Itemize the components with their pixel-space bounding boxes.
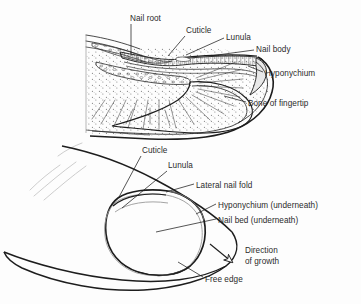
label-lunula: Lunula xyxy=(226,33,251,43)
label-nail-body: Nail body xyxy=(256,45,291,55)
finger-crease-sketch-lines xyxy=(30,143,86,200)
label-direction-of-growth-line1: Direction xyxy=(245,246,278,256)
label-bone-of-fingertip: Bone of fingertip xyxy=(248,99,308,109)
surface-view-drawing xyxy=(4,143,237,290)
leader-nail-bed xyxy=(156,219,216,232)
label-cuticle: Cuticle xyxy=(186,26,211,36)
label-hyponychium-surface: Hyponychium (underneath) xyxy=(218,201,318,211)
label-nail-bed: Nail bed (underneath) xyxy=(218,216,298,226)
label-lunula-surface: Lunula xyxy=(168,161,193,171)
label-free-edge: Free edge xyxy=(205,275,243,285)
nail-plate-surface xyxy=(106,190,206,276)
free-edge-arc xyxy=(138,266,190,275)
label-direction-of-growth-line2: of growth xyxy=(245,257,279,267)
label-lateral-nail-fold: Lateral nail fold xyxy=(196,181,252,191)
nail-anatomy-figure: Nail root Cuticle Lunula Nail body Hypon… xyxy=(0,0,361,304)
surface-view-leaders xyxy=(119,156,216,277)
nail-anatomy-artwork xyxy=(0,0,361,304)
nail-plate-surface-offset xyxy=(105,194,203,276)
label-cuticle-surface: Cuticle xyxy=(142,146,167,156)
label-nail-root: Nail root xyxy=(130,14,161,24)
direction-of-growth-arrow xyxy=(210,244,232,262)
label-hyponychium: Hyponychium xyxy=(265,69,315,79)
